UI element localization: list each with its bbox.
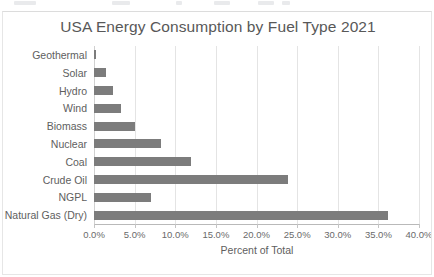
bar-ngpl[interactable] <box>94 193 151 202</box>
x-tick-15.0% <box>216 224 217 228</box>
x-tick-5.0% <box>135 224 136 228</box>
x-tick-35.0% <box>378 224 379 228</box>
y-axis-label-wind: Wind <box>63 102 87 114</box>
bar-row <box>94 206 419 224</box>
bar-row <box>94 135 419 153</box>
x-tick-label-30.0%: 30.0% <box>324 229 351 240</box>
bar-geothermal[interactable] <box>94 50 96 59</box>
bar-series <box>94 46 419 224</box>
bar-wind[interactable] <box>94 104 121 113</box>
y-axis-category-labels: GeothermalSolarHydroWindBiomassNuclearCo… <box>3 46 91 224</box>
bar-coal[interactable] <box>94 157 191 166</box>
x-tick-20.0% <box>257 224 258 228</box>
x-tick-label-40.0%: 40.0% <box>406 229 432 240</box>
gridline-40.0% <box>419 46 420 224</box>
artifact-smudge-5 <box>282 1 290 5</box>
x-tick-label-10.0%: 10.0% <box>162 229 189 240</box>
x-tick-0.0% <box>94 224 95 228</box>
bar-row <box>94 117 419 135</box>
x-axis-title: Percent of Total <box>94 244 420 256</box>
top-artifact-strip <box>0 0 434 9</box>
bar-row <box>94 171 419 189</box>
artifact-smudge-2 <box>176 1 182 5</box>
bar-row <box>94 64 419 82</box>
y-axis-label-coal: Coal <box>65 156 87 168</box>
y-axis-label-hydro: Hydro <box>59 85 87 97</box>
x-tick-label-0.0%: 0.0% <box>83 229 105 240</box>
artifact-smudge-4 <box>258 1 274 5</box>
chart-container[interactable]: USA Energy Consumption by Fuel Type 2021… <box>2 11 432 275</box>
artifact-smudge-0 <box>14 1 36 5</box>
y-axis-label-ngpl: NGPL <box>58 191 87 203</box>
y-axis-label-solar: Solar <box>62 67 87 79</box>
x-tick-label-15.0%: 15.0% <box>202 229 229 240</box>
y-axis-label-geothermal: Geothermal <box>32 49 87 61</box>
bar-hydro[interactable] <box>94 86 113 95</box>
bar-row <box>94 153 419 171</box>
screenshot-root: USA Energy Consumption by Fuel Type 2021… <box>0 0 434 277</box>
y-axis-label-natural-gas-dry: Natural Gas (Dry) <box>5 209 87 221</box>
bar-row <box>94 99 419 117</box>
bar-solar[interactable] <box>94 68 106 77</box>
bar-row <box>94 188 419 206</box>
bar-nuclear[interactable] <box>94 139 161 148</box>
chart-title: USA Energy Consumption by Fuel Type 2021 <box>3 18 432 36</box>
artifact-smudge-3 <box>214 1 230 5</box>
y-axis-label-biomass: Biomass <box>47 120 87 132</box>
x-tick-10.0% <box>175 224 176 228</box>
y-axis-label-nuclear: Nuclear <box>51 138 87 150</box>
x-tick-40.0% <box>419 224 420 228</box>
x-axis-tick-labels: 0.0%5.0%10.0%15.0%20.0%25.0%30.0%35.0%40… <box>3 229 432 243</box>
x-tick-30.0% <box>338 224 339 228</box>
bar-biomass[interactable] <box>94 122 135 131</box>
x-tick-label-25.0%: 25.0% <box>284 229 311 240</box>
bar-natural-gas-dry[interactable] <box>94 211 388 220</box>
bar-crude-oil[interactable] <box>94 175 288 184</box>
plot-area <box>94 46 419 224</box>
bar-row <box>94 46 419 64</box>
x-tick-label-20.0%: 20.0% <box>243 229 270 240</box>
y-axis-label-crude-oil: Crude Oil <box>43 174 87 186</box>
artifact-smudge-1 <box>112 1 130 5</box>
x-tick-label-35.0%: 35.0% <box>365 229 392 240</box>
x-tick-25.0% <box>297 224 298 228</box>
x-tick-label-5.0%: 5.0% <box>124 229 146 240</box>
bar-row <box>94 82 419 100</box>
